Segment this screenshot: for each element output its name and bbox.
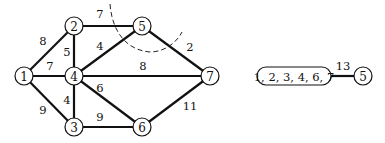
- node-label: 6: [138, 121, 146, 135]
- edge-weight-label: 4: [63, 93, 70, 107]
- edge-weight-label: 7: [96, 7, 103, 21]
- edge-6-7: [142, 76, 210, 127]
- edge-weight-label: 9: [39, 103, 46, 117]
- contracted-group-label: 1, 2, 3, 4, 6, 7: [254, 70, 334, 84]
- node-label: 1: [20, 70, 28, 84]
- edge-weight-label: 4: [96, 39, 103, 53]
- edge-4-5: [74, 26, 142, 76]
- edges: 8795748649211: [24, 7, 210, 127]
- edge-weight-label: 6: [96, 81, 103, 95]
- contracted-edge-weight: 13: [336, 59, 351, 73]
- edge-weight-label: 8: [39, 34, 46, 48]
- edge-weight-label: 5: [63, 45, 70, 59]
- node-label: 4: [70, 70, 78, 84]
- node-label: 5: [138, 20, 146, 34]
- edge-weight-label: 7: [46, 59, 53, 73]
- edge-weight-label: 2: [186, 40, 193, 54]
- edge-weight-label: 9: [96, 110, 103, 124]
- node-label: 3: [70, 121, 78, 135]
- edge-weight-label: 11: [183, 99, 198, 113]
- contracted-node-label: 5: [359, 70, 367, 84]
- graph-diagram: 8795748649211 1234567 1, 2, 3, 4, 6, 7 5…: [0, 0, 385, 143]
- edge-4-6: [74, 76, 142, 127]
- edge-weight-label: 8: [139, 59, 146, 73]
- edge-5-7: [142, 26, 210, 76]
- node-label: 2: [70, 20, 78, 34]
- node-label: 7: [206, 70, 214, 84]
